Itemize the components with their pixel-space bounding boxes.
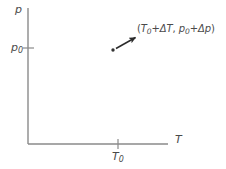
y-tick-label-subscript: 0 xyxy=(18,46,23,55)
annotation-T: T xyxy=(141,23,147,34)
annotation-delta-p: Δp xyxy=(198,23,211,34)
annotation-plus-2: + xyxy=(190,23,198,34)
annotation-T-subscript: 0 xyxy=(147,27,152,36)
x-axis-label: T xyxy=(175,134,182,145)
y-axis-label: p xyxy=(15,4,22,15)
state-point-annotation-label: (T0+ΔT, p0+Δp) xyxy=(137,24,215,34)
state-point-marker xyxy=(111,48,114,51)
pt-diagram-figure: p p0 T T0 (T0+ΔT, p0+Δp) xyxy=(0,0,226,169)
annotation-p-subscript: 0 xyxy=(185,27,190,36)
annotation-arrow xyxy=(116,38,136,49)
x-tick-label-subscript: 0 xyxy=(119,155,124,164)
y-axis-tick-label-p0: p0 xyxy=(11,42,23,53)
annotation-delta-T: ΔT xyxy=(160,23,173,34)
x-axis-tick-label-T0: T0 xyxy=(112,151,124,162)
annotation-plus-1: + xyxy=(152,23,160,34)
x-tick-label-base: T xyxy=(112,150,119,163)
y-tick-label-base: p xyxy=(11,41,18,54)
annotation-close-paren: ) xyxy=(211,23,215,34)
